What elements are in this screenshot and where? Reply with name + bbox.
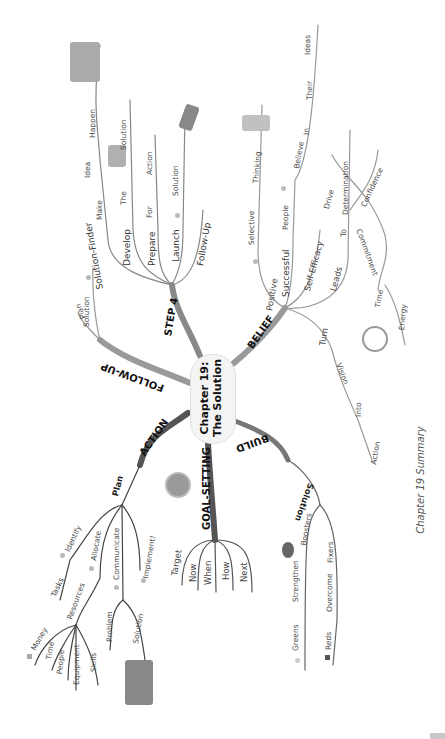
step4-develop: Develop — [123, 229, 132, 266]
action-problem: Problem — [106, 611, 114, 642]
communicate-bullet-icon — [114, 585, 119, 590]
belief-into: Into — [355, 403, 363, 418]
positive-bullet-icon — [253, 259, 258, 264]
page-corner-mark — [430, 733, 445, 739]
step4-make: Make — [96, 200, 104, 220]
belief-their: Their — [306, 81, 314, 100]
build-strengthen: Strengthen — [292, 560, 300, 602]
belief-determination: Determination — [342, 161, 350, 215]
build-greens: Greens — [292, 624, 300, 651]
step4-idea: Idea — [84, 162, 92, 178]
branch-label-goal-setting: GOAL-SETTING — [202, 447, 212, 530]
step4-happen: Happen — [89, 109, 97, 138]
resource-equipment: Equipment — [73, 644, 81, 685]
belief-in: In — [303, 128, 311, 135]
thinking-picture-icon — [242, 115, 270, 131]
step4-action: Action — [146, 152, 154, 176]
resource-skills: Skills — [90, 653, 98, 672]
step4-prepare: Prepare — [148, 231, 157, 266]
booster-picture-icon — [282, 542, 294, 558]
belief-to: To — [340, 229, 348, 237]
belief-selective: Selective — [248, 211, 256, 245]
build-fixers: Fixers — [327, 541, 335, 563]
belief-successful: Successful — [282, 249, 291, 297]
central-title-line1: Chapter 19: — [199, 359, 212, 437]
puzzle-picture-icon — [125, 660, 153, 705]
clock-icon — [362, 326, 388, 352]
follow-up-solution: Solution — [83, 296, 91, 327]
belief-ideas: Ideas — [304, 35, 312, 55]
target-icon — [165, 472, 191, 498]
goal-next: Next — [240, 562, 249, 582]
step4-the: The — [120, 191, 128, 205]
money-icon — [27, 654, 32, 659]
launch-bullet-icon — [175, 213, 180, 218]
solution-bullet-icon — [86, 275, 91, 280]
goal-when: When — [204, 561, 213, 585]
build-overcome: Overcome — [326, 573, 334, 612]
goal-how: How — [222, 561, 231, 580]
step4-for: For — [146, 206, 154, 218]
idea-happen-picture-icon — [70, 42, 100, 82]
resource-people: People — [56, 649, 66, 674]
build-reds: Reds — [325, 632, 333, 650]
belief-people: People — [282, 205, 290, 230]
goal-now: Now — [189, 563, 198, 582]
people-bullet-icon — [281, 186, 286, 191]
figure-caption: Chapter 19 Summary — [415, 426, 426, 533]
branch-step4 — [172, 285, 200, 356]
action-communicate: Communicate — [113, 528, 121, 580]
central-node-title: Chapter 19: The Solution — [199, 359, 224, 437]
step4-develop-solution: Solution — [120, 119, 128, 150]
central-title-line2: The Solution — [212, 359, 225, 437]
belief-energy: Energy — [398, 304, 408, 331]
reds-flag-icon — [325, 655, 330, 660]
greens-bullet-icon — [295, 658, 300, 663]
identify-bullet-icon — [60, 553, 65, 558]
step4-launch: Launch — [172, 229, 181, 262]
allocate-bullet-icon — [89, 566, 94, 571]
step4-launch-solution: Solution — [172, 165, 180, 196]
implement-bullet-icon — [141, 578, 146, 583]
